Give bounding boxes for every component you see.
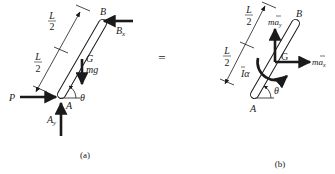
effective-force-may-label: may	[268, 17, 282, 28]
force-p-label: P	[8, 92, 15, 103]
weight-mg-label: mg	[86, 64, 98, 75]
point-b-label: B	[100, 6, 106, 17]
caption-b: (b)	[275, 159, 286, 169]
dimension-label-l: L	[34, 51, 41, 62]
point-a-label: A	[65, 100, 73, 111]
effective-force-max-label: max	[312, 57, 326, 68]
angular-inertia-label: Iα	[240, 68, 250, 79]
dimension-label-2: 2	[247, 16, 252, 27]
center-g-label: G	[86, 53, 93, 64]
caption-a: (a)	[80, 150, 90, 160]
theta-label: θ	[274, 85, 279, 96]
point-b-label: B	[296, 8, 302, 19]
dimension-label-2: 2	[50, 21, 55, 32]
dimension-label-2: 2	[36, 63, 41, 74]
panel-b-kinetic-diagram: L 2 L 2 B may G max Iα θ A (b)	[220, 2, 326, 169]
force-ay-label: Ay	[46, 114, 57, 127]
point-a-label: A	[249, 103, 257, 114]
equals-sign: =	[158, 50, 165, 65]
dimension-label-l: L	[48, 10, 55, 21]
dimension-label-l: L	[223, 45, 230, 56]
center-g-label: G	[281, 51, 288, 62]
theta-label: θ	[80, 92, 85, 103]
force-bx-label: Bx	[116, 25, 126, 38]
dimension-label-2: 2	[225, 57, 230, 68]
rod-kinetics-diagram: L 2 L 2 B Bx G mg P A Ay θ (a) =	[0, 0, 335, 174]
panel-a-free-body-diagram: L 2 L 2 B Bx G mg P A Ay θ (a)	[8, 5, 133, 160]
dimension-label-l: L	[245, 4, 252, 15]
